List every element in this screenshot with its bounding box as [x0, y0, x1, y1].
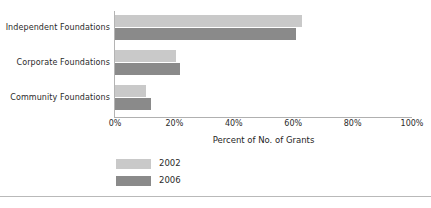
plot-area: [115, 12, 412, 117]
legend-label-2002: 2002: [159, 158, 181, 168]
legend-swatch-2006: [116, 176, 151, 186]
page-divider-rule: [0, 196, 431, 197]
bar-community-foundations-2006: [115, 98, 151, 110]
bar-group-corporate-foundations: [115, 50, 412, 76]
legend-label-2006: 2006: [159, 175, 181, 185]
bar-group-independent-foundations: [115, 15, 412, 41]
bar-independent-foundations-2006: [115, 28, 296, 40]
legend-swatch-2002: [116, 159, 151, 169]
x-tick-label-80: 80%: [344, 119, 362, 128]
x-tick-label-60: 60%: [284, 119, 302, 128]
bar-group-community-foundations: [115, 85, 412, 111]
x-axis-tick-labels: 0%20%40%60%80%100%: [0, 119, 431, 133]
x-tick-label-40: 40%: [225, 119, 243, 128]
category-label-independent-foundations: Independent Foundations: [0, 23, 110, 32]
x-tick-label-20: 20%: [166, 119, 184, 128]
bar-community-foundations-2002: [115, 85, 146, 97]
x-axis-line: [114, 117, 412, 118]
category-label-community-foundations: Community Foundations: [0, 93, 110, 102]
category-axis-labels: Independent Foundations Corporate Founda…: [0, 12, 110, 117]
category-label-corporate-foundations: Corporate Foundations: [0, 58, 110, 67]
x-tick-label-0: 0%: [109, 119, 122, 128]
x-tick-label-100: 100%: [401, 119, 424, 128]
bar-independent-foundations-2002: [115, 15, 302, 27]
x-axis-title: Percent of No. of Grants: [115, 135, 412, 145]
bar-corporate-foundations-2002: [115, 50, 176, 62]
bar-corporate-foundations-2006: [115, 63, 180, 75]
bar-chart-figure: Independent Foundations Corporate Founda…: [0, 0, 431, 208]
